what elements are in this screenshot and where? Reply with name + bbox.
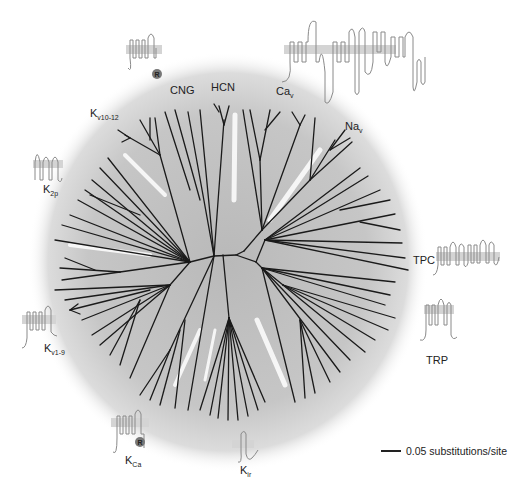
family-label-kca: KCa — [125, 455, 141, 468]
family-label-k2p: K2p — [43, 184, 58, 197]
family-label-cng: CNG — [170, 85, 194, 96]
family-label-cav: Cav — [276, 86, 294, 99]
family-label-kv10-12: Kv10-12 — [90, 108, 119, 121]
kca-r-domain-label: R — [137, 439, 142, 446]
scale-bar-label: 0.05 substitutions/site — [406, 445, 507, 457]
family-label-nav: Nav — [345, 121, 363, 134]
tree-graphic: R R — [0, 0, 516, 487]
cng-r-domain-label: R — [154, 71, 159, 78]
family-label-trp: TRP — [426, 355, 448, 366]
family-label-kir: Kir — [240, 465, 251, 478]
phylogenetic-tree-figure: R R CNG HCN Cav Nav TPC TRP Kir KCa Kv1-… — [0, 0, 516, 487]
trp-channel-icon — [420, 299, 457, 340]
family-label-kv1-9: Kv1-9 — [44, 343, 65, 356]
tpc-channel-icon — [433, 240, 500, 275]
scale-bar-line — [381, 450, 401, 451]
family-label-tpc: TPC — [413, 255, 435, 266]
scale-bar: 0.05 substitutions/site — [381, 445, 507, 457]
family-label-hcn: HCN — [211, 82, 235, 93]
